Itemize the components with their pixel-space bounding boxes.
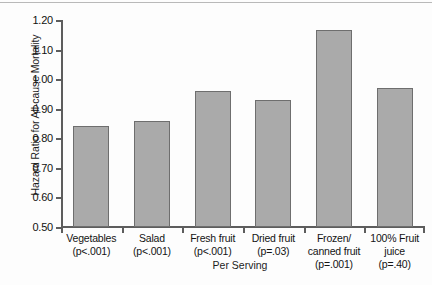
plot-area: 1.201.101.000.900.800.700.600.50 (61, 20, 425, 227)
y-tick-mark (56, 20, 61, 22)
bar (316, 30, 352, 227)
y-tick-label: 0.50 (32, 221, 53, 233)
y-tick-label: 1.00 (32, 73, 53, 85)
category-label: 100% Fruit juice(p=.40) (358, 232, 431, 271)
y-tick-mark (56, 168, 61, 170)
y-tick-label: 0.70 (32, 162, 53, 174)
bar (73, 126, 109, 227)
bar (377, 88, 413, 227)
y-tick-mark (56, 197, 61, 199)
scan-artifact-line (0, 2, 432, 3)
bar (255, 100, 291, 227)
category-name: 100% Fruit juice (358, 232, 431, 258)
bar (134, 121, 170, 227)
y-tick-mark (56, 138, 61, 140)
y-tick-label: 1.20 (32, 14, 53, 26)
y-tick-label: 0.90 (32, 103, 53, 115)
y-tick-mark (56, 109, 61, 111)
y-tick-label: 0.80 (32, 132, 53, 144)
hazard-ratio-bar-chart: Hazard Ratio for All-cause Mortality Per… (0, 0, 432, 285)
bar (195, 91, 231, 227)
y-tick-label: 1.10 (32, 44, 53, 56)
y-axis-title: Hazard Ratio for All-cause Mortality (29, 10, 41, 220)
category-pvalue: (p=.40) (358, 258, 431, 271)
y-tick-label: 0.60 (32, 191, 53, 203)
y-tick-mark (56, 79, 61, 81)
y-tick-mark (56, 50, 61, 52)
